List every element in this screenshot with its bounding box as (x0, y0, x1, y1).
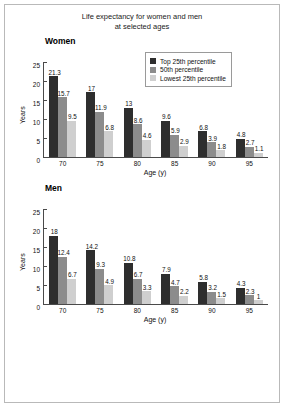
x-axis-label: Age (y) (125, 169, 185, 176)
bar: 15.7 (58, 97, 67, 157)
bar-value-label: 18 (51, 228, 58, 235)
x-axis-tick: 80 (134, 304, 141, 314)
bar: 4.7 (170, 286, 179, 304)
bar-value-label: 3.2 (208, 284, 217, 291)
bar: 3.9 (207, 142, 216, 157)
bar-value-label: 1.8 (217, 143, 226, 150)
legend-item: Lowest 25th percentile (150, 75, 226, 82)
bar-group: 7.94.72.285 (156, 209, 193, 304)
bar-value-label: 13 (125, 100, 132, 107)
bar-value-label: 4.9 (105, 278, 114, 285)
x-axis-tick: 70 (59, 304, 66, 314)
figure-title: Life expectancy for women and men at sel… (5, 5, 279, 32)
bar: 6.7 (67, 279, 76, 304)
bar: 6.7 (133, 279, 142, 304)
bar-value-label: 17 (88, 85, 95, 92)
bar: 11.9 (95, 112, 104, 157)
bar: 6.8 (104, 131, 113, 157)
bar-value-label: 5.9 (171, 127, 180, 134)
bar-value-label: 10.8 (123, 255, 135, 262)
chart-panel-women: Women Years051015202521.315.79.5701711.9… (5, 36, 279, 179)
bar: 21.3 (49, 76, 58, 157)
chart-legend: Top 25th percentile50th percentileLowest… (145, 52, 232, 87)
bar-group: 5.83.21.590 (193, 209, 230, 304)
bar-value-label: 2.3 (246, 288, 255, 295)
bar: 9.5 (67, 121, 76, 157)
bar: 5.8 (198, 282, 207, 304)
bar-value-label: 12.4 (58, 249, 70, 256)
bar-group: 4.32.3195 (231, 209, 268, 304)
chart-panel-men: Men Years05101520251812.46.77014.29.34.9… (5, 183, 279, 326)
chart-title-women: Women (45, 36, 279, 46)
bar: 10.8 (124, 263, 133, 304)
bar-group: 1812.46.770 (44, 209, 81, 304)
bar: 4.6 (142, 140, 151, 157)
bar-group: 4.82.71.195 (231, 62, 268, 157)
figure-title-line2: at selected ages (5, 22, 279, 32)
bar-value-label: 11.9 (95, 104, 107, 111)
bar: 1.5 (216, 298, 225, 304)
x-axis-tick: 90 (208, 304, 215, 314)
legend-label: Top 25th percentile (160, 58, 216, 65)
bar-group: 21.315.79.570 (44, 62, 81, 157)
legend-label: 50th percentile (160, 66, 203, 73)
bar-group: 14.29.34.975 (81, 209, 118, 304)
bar: 5.9 (170, 135, 179, 157)
bar: 4.3 (236, 288, 245, 304)
bar: 12.4 (58, 257, 67, 304)
x-axis-tick: 90 (208, 157, 215, 167)
bar: 2.9 (179, 146, 188, 157)
x-axis-tick: 70 (59, 157, 66, 167)
bar: 9.6 (161, 121, 170, 157)
x-axis-tick: 75 (96, 304, 103, 314)
bar-value-label: 1.5 (217, 291, 226, 298)
legend-swatch-icon (150, 58, 156, 64)
axes: 05101520251812.46.77014.29.34.97510.86.7… (43, 209, 268, 305)
x-axis-tick: 95 (246, 157, 253, 167)
bar-value-label: 2.7 (246, 139, 255, 146)
bar-value-label: 1.1 (255, 145, 264, 152)
x-axis-tick: 85 (171, 304, 178, 314)
legend-item: 50th percentile (150, 66, 226, 73)
bar-value-label: 7.9 (162, 266, 171, 273)
bar-group: 10.86.73.380 (119, 209, 156, 304)
bar-value-label: 2.2 (180, 288, 189, 295)
bar: 13 (124, 108, 133, 157)
x-axis-tick: 95 (246, 304, 253, 314)
bar-value-label: 3.9 (208, 135, 217, 142)
figure-panel: Life expectancy for women and men at sel… (4, 4, 280, 403)
bar: 1.8 (216, 150, 225, 157)
bar: 8.6 (133, 124, 142, 157)
bar: 2.2 (179, 296, 188, 304)
bar-value-label: 6.8 (105, 124, 114, 131)
bar: 2.3 (245, 295, 254, 304)
bar-value-label: 6.7 (68, 271, 77, 278)
bar-value-label: 21.3 (49, 69, 61, 76)
bar: 3.3 (142, 291, 151, 304)
bar-value-label: 6.7 (134, 271, 143, 278)
plot-area-men: Years05101520251812.46.77014.29.34.97510… (5, 193, 279, 326)
legend-swatch-icon (150, 75, 156, 81)
bar-group: 1711.96.875 (81, 62, 118, 157)
bar: 9.3 (95, 269, 104, 304)
chart-title-men: Men (45, 183, 279, 193)
bar-value-label: 4.3 (237, 280, 246, 287)
x-axis-tick: 75 (96, 157, 103, 167)
x-axis-tick: 85 (171, 157, 178, 167)
bar: 3.2 (207, 292, 216, 304)
bar: 17 (86, 92, 95, 157)
bar-value-label: 15.7 (58, 90, 70, 97)
x-axis-tick: 80 (134, 157, 141, 167)
bar-value-label: 4.8 (237, 131, 246, 138)
bar: 6.8 (198, 131, 207, 157)
bar: 4.9 (104, 285, 113, 304)
bar: 4.8 (236, 139, 245, 157)
bar-value-label: 14.2 (86, 243, 98, 250)
bar-value-label: 2.9 (180, 138, 189, 145)
bar-value-label: 1 (257, 293, 261, 300)
plot-area-women: Years051015202521.315.79.5701711.96.8751… (5, 46, 279, 179)
x-axis-label: Age (y) (125, 316, 185, 323)
y-axis-label: Years (19, 253, 26, 271)
legend-item: Top 25th percentile (150, 58, 226, 65)
bar-value-label: 4.6 (143, 132, 152, 139)
